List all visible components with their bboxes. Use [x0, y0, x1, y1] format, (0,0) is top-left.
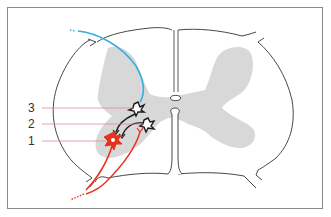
posterior-septum: [174, 30, 178, 92]
label-3: 3: [28, 102, 35, 114]
label-1: 1: [28, 135, 35, 147]
spinal-cord-diagram: [0, 0, 331, 217]
cord-outline-left: [53, 40, 92, 178]
central-canal: [171, 95, 181, 100]
label-2: 2: [28, 118, 35, 130]
cord-outline-right: [258, 42, 293, 170]
